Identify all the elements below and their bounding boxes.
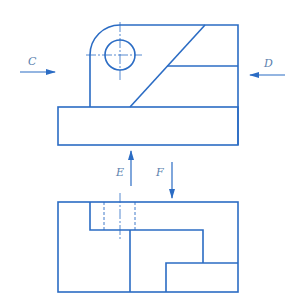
arrow-c-label: C — [28, 55, 37, 68]
hidden-hole-lines — [104, 202, 135, 230]
top-view-outline — [58, 202, 238, 292]
arrow-f: F — [155, 162, 172, 198]
orthographic-drawing: C D E F — [0, 0, 300, 305]
arrow-c: C — [20, 55, 55, 72]
arrow-d-label: D — [263, 57, 273, 70]
top-view-lower-step — [166, 263, 238, 292]
drawing-canvas: C D E F — [0, 0, 300, 305]
top-view-inner-step — [90, 202, 203, 263]
hole-centerlines — [86, 22, 142, 80]
top-view — [58, 202, 238, 292]
arrow-e: E — [115, 151, 131, 186]
arrow-e-label: E — [115, 166, 124, 179]
arrow-d: D — [250, 57, 285, 75]
front-view — [58, 25, 238, 145]
arrow-f-label: F — [155, 166, 164, 179]
front-view-base — [58, 107, 238, 145]
